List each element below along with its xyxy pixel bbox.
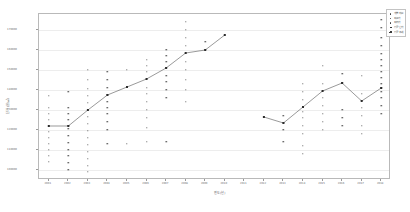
x-axis-tick-mark [106,179,107,181]
x-axis-tick-label: 2013 [279,182,286,185]
chart-screenshot: 단가 (원/㎡) 연도(년) 개별 자료최고가최저가평균 단가평균 추세 100… [0,0,410,212]
x-axis-tick-label: 2012 [260,182,267,185]
x-axis-tick-mark [67,179,68,181]
x-axis-tick-label: 2014 [299,182,306,185]
legend-item: 평균 추세 [389,30,403,35]
x-axis-title: 연도(년) [214,192,225,195]
mean-marker [87,109,89,111]
x-axis-tick-mark [243,179,244,181]
legend-item-label: 최고가 [394,17,400,20]
mean-marker [106,94,108,96]
x-axis-tick-mark [361,179,362,181]
x-axis-tick-mark [322,179,323,181]
x-axis-tick-mark [302,179,303,181]
y-axis-tick-mark [36,29,38,30]
x-axis-tick-label: 2009 [201,182,208,185]
x-axis-tick-label: 2002 [64,182,71,185]
mean-marker [282,122,284,124]
legend: 개별 자료최고가최저가평균 단가평균 추세 [386,9,406,37]
legend-item-label: 개별 자료 [394,12,403,15]
x-axis-tick-mark [263,179,264,181]
x-axis-tick-label: 2011 [240,182,247,185]
x-axis-tick-label: 2006 [142,182,149,185]
y-axis-title: 단가 (원/㎡) [7,98,10,114]
y-axis-tick-label: 110000 [0,148,17,151]
mean-marker [126,86,128,88]
x-axis-tick-mark [380,179,381,181]
x-axis-tick-mark [282,179,283,181]
x-axis-tick-label: 2003 [84,182,91,185]
x-axis-tick-mark [48,179,49,181]
y-axis-tick-label: 160000 [0,48,17,51]
mean-marker [380,87,382,89]
mean-marker [322,90,324,92]
legend-item-label: 평균 단가 [394,26,403,29]
mean-marker [302,106,304,108]
x-axis-tick-mark [224,179,225,181]
mean-marker [48,125,50,127]
x-axis-tick-mark [185,179,186,181]
mean-marker [67,125,69,127]
mean-marker [361,100,363,102]
legend-dot-icon [389,21,392,24]
legend-item-label: 평균 추세 [394,31,403,34]
mean-marker [341,82,343,84]
y-axis-tick-mark [36,149,38,150]
x-axis-tick-label: 2017 [357,182,364,185]
mean-marker [185,52,187,54]
x-axis-tick-mark [341,179,342,181]
y-axis-tick-label: 100000 [0,168,17,171]
y-axis-tick-mark [36,169,38,170]
mean-marker [146,78,148,80]
x-axis-tick-label: 2007 [162,182,169,185]
y-axis-tick-label: 150000 [0,68,17,71]
y-axis-tick-mark [36,49,38,50]
y-axis-tick-mark [36,69,38,70]
y-axis-tick-label: 120000 [0,128,17,131]
mean-marker [204,49,206,51]
mean-marker [165,67,167,69]
x-axis-tick-mark [146,179,147,181]
trend-line [264,83,381,123]
plot-area [38,13,390,179]
y-axis-tick-label: 140000 [0,88,17,91]
y-axis-tick-label: 170000 [0,28,17,31]
y-axis-tick-mark [36,129,38,130]
mean-marker [263,116,265,118]
y-axis-tick-mark [36,89,38,90]
legend-line-icon [389,31,392,34]
legend-item-label: 최저가 [394,21,400,24]
x-axis-tick-mark [165,179,166,181]
x-axis-tick-label: 2016 [338,182,345,185]
x-axis-tick-label: 2010 [220,182,227,185]
trend-line [49,35,225,126]
x-axis-tick-label: 2001 [44,182,51,185]
x-axis-tick-label: 2005 [123,182,130,185]
legend-dot-icon [389,17,392,20]
mean-marker [224,34,226,36]
x-axis-tick-label: 2008 [181,182,188,185]
legend-square-icon [389,26,392,29]
x-axis-tick-mark [87,179,88,181]
x-axis-tick-label: 2018 [377,182,384,185]
x-axis-tick-label: 2004 [103,182,110,185]
legend-dot-icon [389,12,392,15]
y-axis-tick-label: 130000 [0,108,17,111]
trend-line-layer [39,14,391,180]
x-axis-tick-mark [204,179,205,181]
x-axis-tick-mark [126,179,127,181]
x-axis-tick-label: 2015 [318,182,325,185]
y-axis-tick-mark [36,109,38,110]
